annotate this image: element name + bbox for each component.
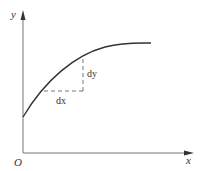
derivative-diagram: y O x dx dy bbox=[0, 0, 211, 171]
x-axis-label: x bbox=[185, 154, 191, 166]
function-curve bbox=[23, 43, 151, 117]
y-axis-arrow-icon bbox=[21, 10, 26, 20]
origin-label: O bbox=[14, 156, 22, 168]
dy-label: dy bbox=[87, 68, 97, 79]
y-axis-label: y bbox=[10, 8, 16, 20]
dx-label: dx bbox=[56, 95, 66, 106]
